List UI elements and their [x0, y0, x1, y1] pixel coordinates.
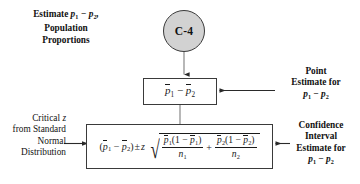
box-confidence-interval[interactable]: (p1 − p2)±z √ p1(1 − p1) n1 + p2(1 − p2)…: [86, 124, 273, 169]
caption-ci-line1: Confidence: [284, 120, 358, 131]
node-c4-circle[interactable]: C-4: [163, 10, 205, 52]
caption-estimate: Estimate p1 − p2, Population Proportions: [6, 9, 126, 46]
formula-ci-plusminus: ±: [135, 141, 141, 152]
fraction-term-2: p2(1 − p2) n2: [215, 135, 257, 160]
formula-ci-radical: √ p1(1 − p1) n1 + p2(1 − p2) n2: [146, 133, 260, 160]
caption-estimate-line1: Estimate p1 − p2,: [6, 9, 126, 23]
node-c4-label: C-4: [175, 25, 194, 37]
caption-ci-math: p1 − p2: [284, 154, 358, 168]
fraction-term-1: p1(1 − p1) n1: [162, 135, 204, 160]
radical-sign: √: [150, 139, 159, 160]
caption-critical-math: z: [62, 113, 66, 123]
formula-ci-point-part: (p1 − p2): [99, 141, 133, 153]
caption-point-line1: Point: [276, 66, 356, 77]
caption-estimate-line3: Proportions: [6, 35, 126, 46]
caption-estimate-math: p1 − p2,: [71, 9, 99, 19]
caption-point-math: p1 − p2: [276, 89, 356, 103]
caption-point-estimate: Point Estimate for p1 − p2: [276, 66, 356, 103]
caption-critical-line1: Critical z: [2, 113, 66, 124]
caption-estimate-line2: Population: [6, 23, 126, 34]
caption-critical-line2: from Standard: [2, 124, 66, 135]
caption-critical-z: Critical z from Standard Normal Distribu…: [2, 113, 66, 159]
fraction-term-1-numerator: p1(1 − p1): [162, 135, 204, 147]
formula-ci-z: z: [141, 141, 145, 152]
caption-ci-line3: Estimate for: [284, 143, 358, 154]
fraction-term-2-denominator: n2: [215, 147, 257, 160]
fraction-term-2-numerator: p2(1 − p2): [215, 135, 257, 147]
formula-point-estimate: p1 − p2: [165, 84, 195, 98]
diagram-canvas: C-4 Estimate p1 − p2, Population Proport…: [0, 0, 360, 184]
formula-confidence-interval: (p1 − p2)±z √ p1(1 − p1) n1 + p2(1 − p2)…: [99, 133, 259, 160]
caption-estimate-prefix: Estimate: [33, 9, 70, 19]
caption-critical-prefix: Critical: [32, 113, 62, 123]
caption-point-line2: Estimate for: [276, 77, 356, 88]
caption-confidence-interval: Confidence Interval Estimate for p1 − p2: [284, 120, 358, 168]
caption-ci-line2: Interval: [284, 131, 358, 142]
fraction-term-1-denominator: n1: [162, 147, 204, 160]
formula-ci-plus: +: [206, 142, 212, 153]
caption-critical-line4: Distribution: [2, 147, 66, 158]
box-point-estimate[interactable]: p1 − p2: [143, 78, 217, 105]
radical-contents: p1(1 − p1) n1 + p2(1 − p2) n2: [159, 133, 260, 160]
caption-critical-line3: Normal: [2, 136, 66, 147]
